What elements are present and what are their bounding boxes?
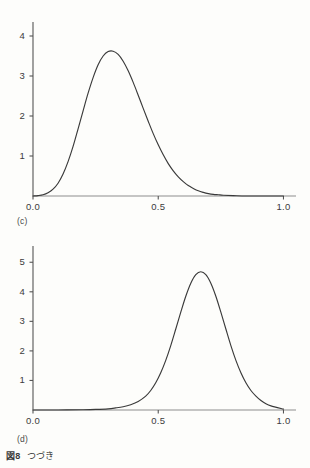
line-chart-d xyxy=(0,232,310,432)
y-tick-label: 1 xyxy=(11,374,25,385)
axes-c xyxy=(30,22,297,200)
figure-page: 1234 0.00.51.0 (c) 12345 0.00.51.0 (d) 図… xyxy=(0,0,310,468)
line-chart-c xyxy=(0,0,310,232)
figure-caption: 図8つづき xyxy=(6,449,55,462)
y-tick-label: 3 xyxy=(11,70,25,81)
curve-d xyxy=(33,272,283,410)
y-tick-label: 2 xyxy=(11,345,25,356)
plot-area-d xyxy=(0,232,310,432)
x-tick-label: 0.5 xyxy=(144,201,172,212)
figure-caption-text: つづき xyxy=(27,451,55,461)
x-tick-label: 1.0 xyxy=(269,201,297,212)
y-tick-label: 1 xyxy=(11,150,25,161)
y-tick-label: 4 xyxy=(11,286,25,297)
chart-panel-d: 12345 0.00.51.0 xyxy=(0,232,310,432)
chart-panel-c: 1234 0.00.51.0 xyxy=(0,0,310,232)
density-curve xyxy=(33,51,283,196)
panel-label-d: (d) xyxy=(17,434,28,444)
x-tick-label: 0.5 xyxy=(144,415,172,426)
x-tick-label: 1.0 xyxy=(269,415,297,426)
y-tick-label: 3 xyxy=(11,315,25,326)
density-curve xyxy=(33,272,283,410)
y-tick-label: 4 xyxy=(11,30,25,41)
axes-d xyxy=(30,246,297,414)
figure-caption-number: 図8 xyxy=(6,451,21,461)
panel-label-c: (c) xyxy=(17,216,28,226)
y-tick-label: 5 xyxy=(11,256,25,267)
y-tick-label: 2 xyxy=(11,110,25,121)
x-tick-label: 0.0 xyxy=(19,201,47,212)
x-tick-label: 0.0 xyxy=(19,415,47,426)
curve-c xyxy=(33,51,283,196)
plot-area-c xyxy=(0,0,310,232)
